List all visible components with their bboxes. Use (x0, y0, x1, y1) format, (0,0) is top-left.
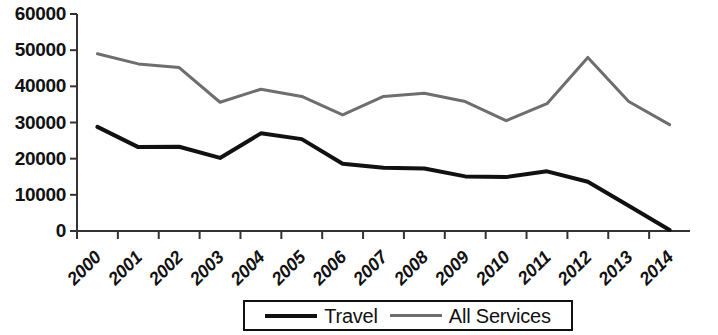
axis-group (70, 14, 690, 239)
y-tick-label: 40000 (15, 75, 66, 97)
chart-legend: Travel All Services (243, 300, 573, 331)
y-tick-label: 20000 (15, 148, 66, 170)
y-tick-label: 10000 (15, 184, 66, 206)
legend-label-travel: Travel (324, 306, 378, 326)
legend-line-swatch-travel (265, 314, 317, 318)
series-group (97, 54, 669, 230)
y-tick-label: 0 (56, 220, 66, 242)
y-tick-label: 60000 (15, 3, 66, 25)
series-line-all-services (97, 54, 669, 125)
line-chart-figure: 0100002000030000400005000060000 20002001… (0, 0, 718, 335)
legend-entry-travel: Travel (265, 306, 378, 326)
legend-line-swatch-all-services (390, 314, 442, 317)
series-line-travel (97, 127, 669, 230)
legend-label-all-services: All Services (449, 306, 551, 326)
y-tick-label: 30000 (15, 112, 66, 134)
legend-entry-all-services: All Services (390, 306, 551, 326)
y-tick-label: 50000 (15, 39, 66, 61)
